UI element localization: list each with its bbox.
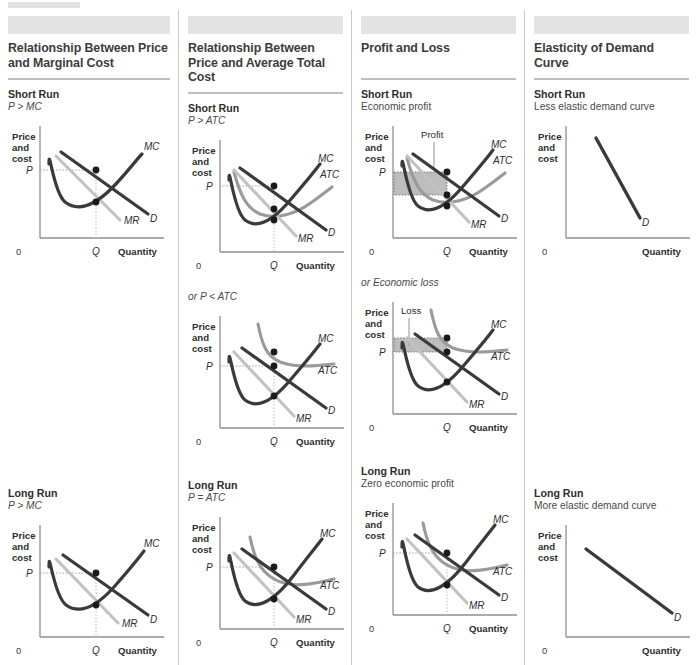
origin-label: 0 bbox=[196, 436, 201, 447]
y-axis-label-line3: cost bbox=[192, 343, 213, 354]
column-heading-1: Relationship Between Price and Marginal … bbox=[8, 41, 170, 71]
chart-zero-profit-long: Price and cost 0 Quantity P Q ATC MR MC … bbox=[361, 495, 521, 640]
run-sub-short-c1: P > MC bbox=[8, 101, 170, 113]
quantity-tick-label: Q bbox=[443, 246, 451, 257]
y-axis-label-line1: Price bbox=[12, 131, 35, 142]
y-axis-label-line2: and bbox=[538, 541, 555, 552]
column-ghost-header-4 bbox=[534, 16, 689, 34]
quantity-tick-label: Q bbox=[443, 623, 451, 634]
curve-label-atc: ATC bbox=[319, 580, 340, 591]
origin-label: 0 bbox=[542, 645, 547, 656]
chart-atc-long: Price and cost 0 Quantity P Q ATC MR MC bbox=[188, 509, 348, 654]
column-price-average-total-cost: Relationship Between Price and Average T… bbox=[178, 10, 351, 665]
curve-label-mc: MC bbox=[493, 514, 509, 525]
top-strip bbox=[0, 0, 697, 10]
point-mc bbox=[271, 595, 278, 602]
origin-label: 0 bbox=[369, 422, 374, 433]
chart-loss-short: Price and cost 0 Quantity P Q Loss ATC M… bbox=[361, 294, 521, 439]
run-label-short-c1: Short Run bbox=[8, 88, 170, 100]
price-tick-label: P bbox=[26, 568, 33, 579]
col3-spacer-a bbox=[361, 263, 516, 277]
y-axis-label-line3: cost bbox=[365, 530, 386, 541]
column-ghost-header-2 bbox=[188, 16, 343, 34]
run-sub-short-c2: P > ATC bbox=[188, 115, 343, 127]
curve-label-mc: MC bbox=[318, 333, 334, 344]
y-axis-label-line1: Price bbox=[365, 307, 388, 318]
col4-spacer-b bbox=[534, 289, 689, 487]
x-axis-label: Quantity bbox=[469, 246, 509, 257]
point-mc bbox=[271, 216, 278, 223]
curve-label-mr: MR bbox=[122, 618, 138, 629]
y-axis-label-line2: and bbox=[538, 142, 555, 153]
y-axis-label-line3: cost bbox=[192, 167, 213, 178]
x-axis-label: Quantity bbox=[118, 645, 158, 656]
column-profit-and-loss: Profit and Loss Short Run Economic profi… bbox=[351, 10, 524, 665]
price-tick-label: P bbox=[379, 167, 386, 178]
quantity-tick-label: Q bbox=[270, 637, 278, 648]
price-tick-label: P bbox=[26, 165, 33, 176]
chart-demand-flat: Price and cost 0 Quantity D bbox=[534, 517, 694, 662]
curve-label-mr: MR bbox=[469, 399, 485, 410]
curve-atc bbox=[258, 324, 334, 366]
column-grid: Relationship Between Price and Marginal … bbox=[0, 10, 697, 665]
y-axis-label-line1: Price bbox=[192, 145, 215, 156]
y-axis-label-line3: cost bbox=[192, 544, 213, 555]
y-axis-label-line2: and bbox=[365, 519, 382, 530]
run-sub-long-c2: P = ATC bbox=[188, 492, 343, 504]
curve-label-d: D bbox=[501, 391, 508, 402]
quantity-tick-label: Q bbox=[92, 246, 100, 257]
y-axis-label-line3: cost bbox=[12, 153, 33, 164]
point-atc bbox=[271, 205, 278, 212]
curve-d bbox=[242, 348, 326, 408]
curve-label-mc: MC bbox=[144, 538, 160, 549]
curve-label-mr: MR bbox=[296, 614, 312, 625]
run-label-long-c1: Long Run bbox=[8, 487, 170, 499]
curve-d bbox=[415, 334, 499, 394]
price-tick-label: P bbox=[379, 347, 386, 358]
curve-label-d: D bbox=[674, 612, 681, 623]
run-label-short-c2: Short Run bbox=[188, 102, 343, 114]
y-axis-label-line1: Price bbox=[12, 530, 35, 541]
run-label-short-c3: Short Run bbox=[361, 88, 516, 100]
curve-label-mr: MR bbox=[124, 215, 140, 226]
column-ghost-header-3 bbox=[361, 16, 516, 34]
point-atc bbox=[271, 348, 278, 355]
x-axis-label: Quantity bbox=[296, 436, 336, 447]
point-price-equals-atc bbox=[271, 563, 278, 570]
curve-label-mc: MC bbox=[491, 319, 507, 330]
y-axis-label-line3: cost bbox=[12, 552, 33, 563]
curve-label-d: D bbox=[501, 213, 508, 224]
or-label-c3: or Economic loss bbox=[361, 277, 516, 289]
point-price-equals-atc bbox=[444, 550, 451, 557]
header-rule-2 bbox=[188, 92, 343, 94]
curve-label-d: D bbox=[150, 213, 157, 224]
run-sub-short-c3: Economic profit bbox=[361, 101, 516, 113]
x-axis-label: Quantity bbox=[469, 623, 509, 634]
point-mc bbox=[444, 203, 451, 210]
price-tick-label: P bbox=[379, 548, 386, 559]
quantity-tick-label: Q bbox=[443, 422, 451, 433]
run-label-long-c4: Long Run bbox=[534, 487, 689, 499]
y-axis-label-line1: Price bbox=[192, 321, 215, 332]
header-rule-3 bbox=[361, 78, 516, 80]
price-tick-label: P bbox=[206, 562, 213, 573]
quantity-tick-label: Q bbox=[270, 260, 278, 271]
x-axis-label: Quantity bbox=[296, 637, 336, 648]
curve-label-d: D bbox=[501, 592, 508, 603]
curve-label-d: D bbox=[642, 217, 649, 228]
point-mc bbox=[444, 379, 451, 386]
column-heading-4: Elasticity of Demand Curve bbox=[534, 41, 689, 71]
run-sub-short-c4: Less elastic demand curve bbox=[534, 101, 689, 113]
chart-atc-short-below: Price and cost 0 Quantity P Q ATC MR MC bbox=[188, 308, 348, 453]
curve-label-atc: ATC bbox=[492, 566, 513, 577]
column-heading-2: Relationship Between Price and Average T… bbox=[188, 41, 343, 85]
y-axis-label-line1: Price bbox=[538, 530, 561, 541]
point-atc bbox=[444, 192, 451, 199]
x-axis-label: Quantity bbox=[296, 260, 336, 271]
run-label-long-c2: Long Run bbox=[188, 479, 343, 491]
x-axis-label: Quantity bbox=[642, 645, 682, 656]
quantity-tick-label: Q bbox=[92, 645, 100, 656]
y-axis-label-line3: cost bbox=[365, 153, 386, 164]
curve-label-d: D bbox=[328, 606, 335, 617]
header-rule-4 bbox=[534, 78, 689, 80]
